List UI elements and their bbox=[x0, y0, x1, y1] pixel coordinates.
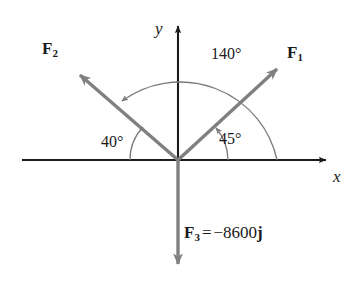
figure-canvas: F2 F1 y x 140° 45° 40° F3=−8600j bbox=[0, 0, 363, 283]
vector-f1-subscript: 1 bbox=[297, 51, 303, 63]
equation-operator: = bbox=[200, 223, 214, 242]
vector-label-f2: F2 bbox=[42, 40, 58, 59]
arc-140 bbox=[122, 82, 277, 160]
vector-f2 bbox=[80, 75, 178, 160]
vector-f1-symbol: F bbox=[287, 43, 297, 62]
equation-unit-vector: j bbox=[257, 223, 263, 242]
y-axis-label: y bbox=[155, 20, 163, 37]
vector-f2-symbol: F bbox=[42, 39, 52, 58]
vector-f2-subscript: 2 bbox=[52, 47, 58, 59]
vector-label-f1: F1 bbox=[287, 44, 303, 63]
equation-magnitude: 8600 bbox=[223, 223, 257, 242]
equation-lhs-symbol: F bbox=[184, 223, 194, 242]
arc-40 bbox=[130, 127, 143, 160]
x-axis-label: x bbox=[333, 168, 341, 185]
angle-label-45: 45° bbox=[219, 131, 241, 147]
angle-label-140: 140° bbox=[211, 46, 241, 62]
equation-f3: F3=−8600j bbox=[184, 224, 263, 243]
angle-label-40: 40° bbox=[101, 134, 123, 150]
equation-sign: − bbox=[213, 223, 223, 242]
